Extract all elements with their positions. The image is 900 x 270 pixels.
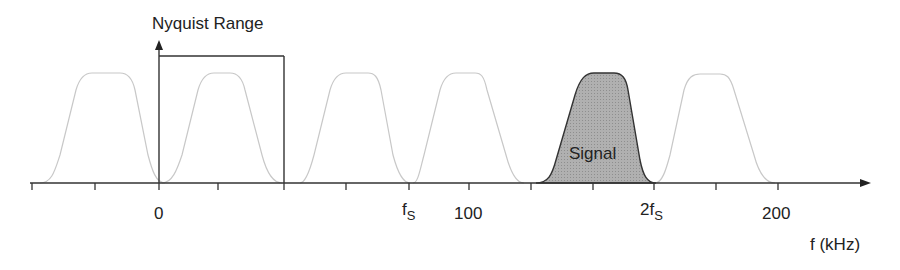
axis-ticks bbox=[32, 183, 778, 190]
tick-label-fs: fS bbox=[402, 200, 415, 220]
image-lobe-6 bbox=[655, 74, 775, 183]
signal-label: Signal bbox=[569, 144, 616, 164]
nyquist-range-title: Nyquist Range bbox=[152, 14, 264, 34]
signal-lobe bbox=[536, 73, 656, 183]
nyquist-range-box bbox=[159, 48, 284, 183]
tick-label-0: 0 bbox=[154, 204, 163, 224]
vertical-arrow-icon bbox=[155, 40, 163, 50]
axis-arrow-icon bbox=[860, 179, 871, 187]
image-lobe-3 bbox=[300, 73, 410, 183]
axis-label: f (kHz) bbox=[810, 235, 860, 255]
image-lobe-1 bbox=[40, 73, 165, 183]
tick-label-200: 200 bbox=[762, 204, 790, 224]
image-lobe-2 bbox=[162, 73, 282, 183]
image-lobe-4 bbox=[413, 73, 524, 183]
tick-label-2fs: 2fS bbox=[640, 200, 663, 220]
image-lobes bbox=[40, 73, 775, 183]
tick-label-100: 100 bbox=[454, 204, 482, 224]
spectrum-diagram bbox=[0, 0, 900, 270]
